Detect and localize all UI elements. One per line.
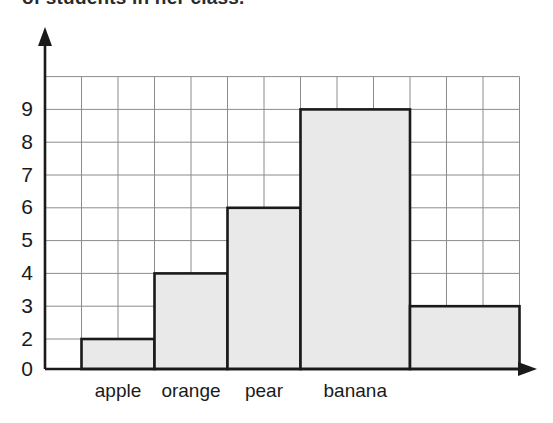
bar: [228, 208, 301, 369]
x-axis-category-label: pear: [245, 380, 284, 401]
y-axis-tick-label: 2: [21, 327, 33, 350]
bar: [155, 273, 228, 369]
bar: [82, 339, 155, 369]
y-axis-tick-label: 7: [21, 163, 33, 186]
x-axis-labels: appleorangepearbanana: [95, 380, 388, 401]
chart-page: of students in her class. 023456789 appl…: [0, 0, 553, 423]
y-axis-tick-label: 9: [21, 97, 33, 120]
bar: [410, 306, 520, 369]
bar: [301, 109, 411, 369]
x-axis-category-label: orange: [161, 380, 220, 401]
y-axis-tick-label: 3: [21, 294, 33, 317]
y-axis-tick-label: 0: [21, 357, 33, 380]
y-axis-tick-label: 6: [21, 195, 33, 218]
y-axis-tick-label: 5: [21, 228, 33, 251]
y-axis-tick-label: 8: [21, 130, 33, 153]
x-axis-category-label: apple: [95, 380, 142, 401]
chart-svg: 023456789 appleorangepearbanana: [0, 0, 553, 423]
x-axis-arrow-icon: [518, 362, 537, 376]
y-axis-arrow-icon: [38, 27, 52, 46]
x-axis-category-label: banana: [324, 380, 388, 401]
y-axis-labels: 023456789: [21, 97, 33, 380]
bars-group: [82, 109, 520, 369]
y-axis-tick-label: 4: [21, 261, 33, 284]
bar-chart: 023456789 appleorangepearbanana: [0, 0, 553, 423]
